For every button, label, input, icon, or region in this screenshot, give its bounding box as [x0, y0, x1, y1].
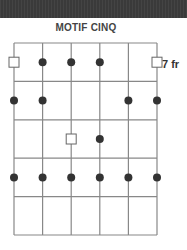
finger-dot: [67, 58, 75, 66]
finger-dot: [10, 173, 18, 181]
finger-dot: [39, 173, 47, 181]
finger-dot: [124, 173, 132, 181]
fretboard-diagram: [0, 0, 187, 250]
root-square: [152, 57, 162, 67]
finger-dot: [39, 97, 47, 105]
finger-dot: [153, 97, 161, 105]
finger-dot: [39, 58, 47, 66]
finger-dot: [67, 173, 75, 181]
root-square: [66, 134, 76, 144]
finger-dot: [153, 173, 161, 181]
finger-dot: [96, 135, 104, 143]
root-square: [9, 57, 19, 67]
finger-dot: [96, 58, 104, 66]
finger-dot: [10, 97, 18, 105]
finger-dot: [96, 173, 104, 181]
finger-dot: [124, 97, 132, 105]
